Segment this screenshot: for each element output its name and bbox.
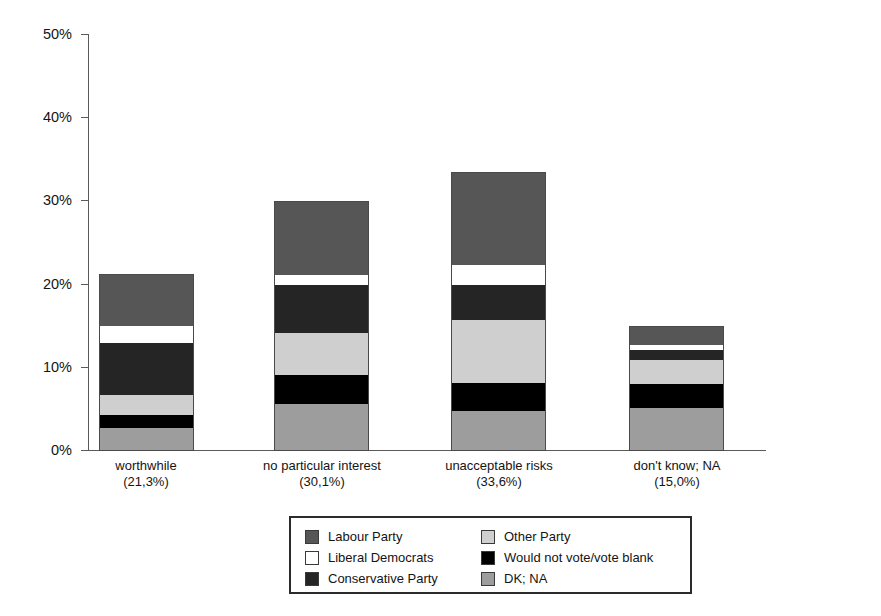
bar-segment-liberal-democrats [99,326,194,343]
legend-swatch-dk-na [481,572,495,586]
y-axis-tick-label-30: 30% [43,191,72,209]
y-axis-tick-40: 40% [81,117,88,118]
bar-segment-would-not-vote [99,415,194,427]
bar-segment-labour-party [274,201,369,275]
legend-label-conservative-party: Conservative Party [328,571,438,586]
bar-segment-other-party [274,333,369,375]
legend-label-dk-na: DK; NA [504,571,547,586]
bar-segment-would-not-vote [629,384,724,408]
plot-area: 0% 10% 20% 30% 40% 50% worthwhile (21,3%… [88,34,766,452]
bar-segment-other-party [451,320,546,383]
bar-segment-other-party [99,395,194,415]
y-axis-tick-label-0: 0% [51,441,72,459]
legend-item-would-not-vote[interactable]: Would not vote/vote blank [481,547,683,568]
bar-segment-dk-na [274,404,369,451]
legend: Labour Party Other Party Liberal Democra… [289,516,692,594]
y-axis-tick-label-10: 10% [43,358,72,376]
y-axis-tick-10: 10% [81,367,88,368]
bar-segment-conservative-party [99,343,194,395]
bar-dont-know-na[interactable] [629,326,724,451]
bar-segment-liberal-democrats [451,265,546,285]
bar-no-particular-interest[interactable] [274,201,369,451]
bar-segment-dk-na [451,411,546,451]
legend-item-labour-party[interactable]: Labour Party [305,526,481,547]
bar-segment-dk-na [99,428,194,451]
x-axis-category-3: don't know; NA [567,458,787,474]
legend-item-liberal-democrats[interactable]: Liberal Democrats [305,547,481,568]
x-axis-label-dont-know-na: don't know; NA (15,0%) [567,458,787,490]
y-axis-tick-30: 30% [81,200,88,201]
legend-label-liberal-democrats: Liberal Democrats [328,550,434,565]
stacked-bar-chart: 0% 10% 20% 30% 40% 50% worthwhile (21,3%… [0,0,881,616]
y-axis-tick-20: 20% [81,284,88,285]
bar-segment-would-not-vote [274,375,369,403]
bar-unacceptable-risks[interactable] [451,172,546,451]
bar-worthwhile[interactable] [99,274,194,451]
bar-segment-labour-party [451,172,546,265]
y-axis-tick-50: 50% [81,34,88,35]
y-axis-tick-label-50: 50% [43,25,72,43]
bar-segment-liberal-democrats [274,275,369,285]
bar-segment-would-not-vote [451,383,546,411]
bar-segment-conservative-party [629,350,724,360]
y-axis-tick-0: 0% [81,450,88,451]
x-axis-total-3: (15,0%) [567,474,787,490]
bar-segment-dk-na [629,408,724,451]
legend-swatch-other-party [481,530,495,544]
bar-segment-labour-party [629,326,724,345]
legend-item-dk-na[interactable]: DK; NA [481,568,683,589]
legend-swatch-liberal-democrats [305,551,319,565]
bar-segment-other-party [629,360,724,384]
legend-label-labour-party: Labour Party [328,529,402,544]
bar-segment-conservative-party [451,285,546,320]
y-axis-tick-label-40: 40% [43,108,72,126]
bar-segment-labour-party [99,274,194,326]
bar-segment-conservative-party [274,285,369,333]
y-axis-line [88,34,89,451]
y-axis-tick-label-20: 20% [43,275,72,293]
legend-swatch-would-not-vote [481,551,495,565]
legend-item-other-party[interactable]: Other Party [481,526,683,547]
legend-swatch-conservative-party [305,572,319,586]
legend-grid: Labour Party Other Party Liberal Democra… [305,526,683,589]
legend-label-would-not-vote: Would not vote/vote blank [504,550,653,565]
legend-item-conservative-party[interactable]: Conservative Party [305,568,481,589]
legend-swatch-labour-party [305,530,319,544]
legend-label-other-party: Other Party [504,529,570,544]
